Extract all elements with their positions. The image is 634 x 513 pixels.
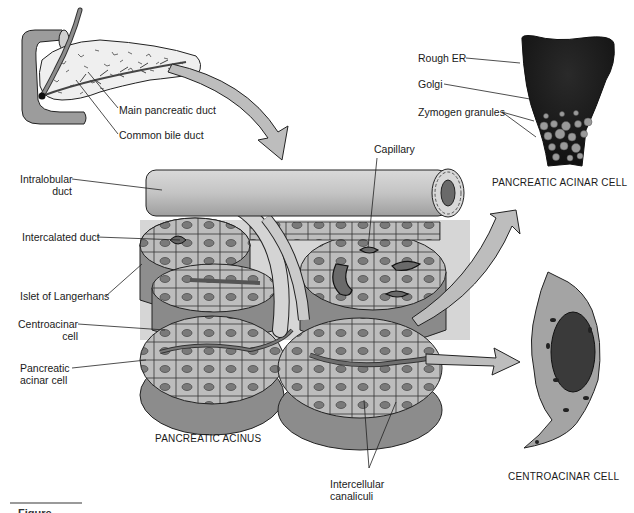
label-pancreatic-acinar-cell-line2: acinar cell <box>20 374 70 386</box>
label-intercellular-canaliculi-line1: Intercellular <box>330 478 384 490</box>
label-centroacinar-cell: Centroacinar cell <box>18 318 78 342</box>
acinus-illustration <box>72 158 470 468</box>
label-main-pancreatic-duct: Main pancreatic duct <box>119 104 216 116</box>
centroacinar-cell-illustration <box>524 272 600 448</box>
label-intercellular-canaliculi: Intercellular canaliculi <box>330 478 384 502</box>
label-golgi: Golgi <box>418 78 443 90</box>
acinar-cell-illustration <box>444 36 614 167</box>
label-zymogen-granules: Zymogen granules <box>418 106 505 118</box>
title-pancreatic-acinar-cell: PANCREATIC ACINAR CELL <box>492 177 627 188</box>
label-capillary: Capillary <box>374 143 415 155</box>
label-centroacinar-cell-line1: Centroacinar <box>18 318 78 330</box>
label-intralobular-duct-line1: Intralobular <box>20 173 72 185</box>
label-rough-er: Rough ER <box>418 52 466 64</box>
diagram-artwork <box>0 0 634 513</box>
label-centroacinar-cell-line2: cell <box>18 330 78 342</box>
label-common-bile-duct: Common bile duct <box>119 129 204 141</box>
label-intralobular-duct-line2: duct <box>20 185 72 197</box>
label-intercalated-duct: Intercalated duct <box>22 231 100 243</box>
figure-caption-rule <box>10 502 82 504</box>
label-pancreatic-acinar-cell: Pancreatic acinar cell <box>20 362 70 386</box>
title-centroacinar-cell: CENTROACINAR CELL <box>508 471 619 482</box>
label-intralobular-duct: Intralobular duct <box>20 173 72 197</box>
label-islet-of-langerhans: Islet of Langerhans <box>20 290 109 302</box>
title-pancreatic-acinus: PANCREATIC ACINUS <box>155 433 261 444</box>
figure-caption: Figure <box>18 507 52 513</box>
label-intercellular-canaliculi-line2: canaliculi <box>330 490 384 502</box>
label-pancreatic-acinar-cell-line1: Pancreatic <box>20 362 70 374</box>
